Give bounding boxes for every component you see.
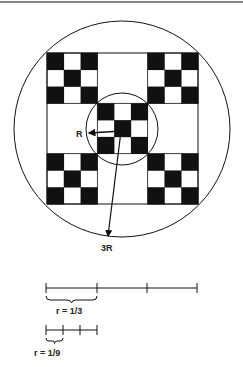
brace-one-ninth xyxy=(46,338,63,344)
inner-radius-label: R xyxy=(76,129,83,139)
scale-bar-one-ninth xyxy=(46,325,97,344)
outer-radius-label: 3R xyxy=(101,243,113,253)
scale-label-one-ninth: r = 1/9 xyxy=(34,348,60,358)
fractal-diagram: R 3R r = 1/3 r = 1/9 xyxy=(0,0,243,367)
scale-label-one-third: r = 1/3 xyxy=(56,306,82,316)
scale-bar-one-third xyxy=(46,283,197,303)
brace-one-third xyxy=(46,296,97,303)
checker-square xyxy=(47,53,198,204)
